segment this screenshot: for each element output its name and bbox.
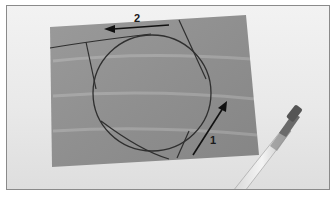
arrow-1-label: 1 <box>210 134 216 146</box>
paper-sheet <box>50 15 259 167</box>
photo-frame: 2 1 <box>6 5 330 190</box>
arrow-2-label: 2 <box>134 12 140 24</box>
photo-scene <box>7 6 330 190</box>
